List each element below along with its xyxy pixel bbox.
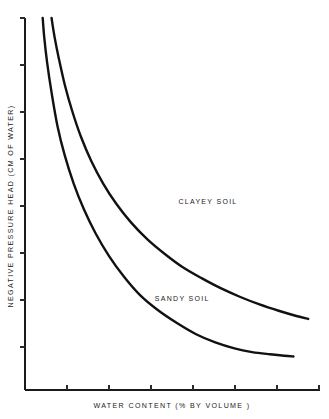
y-axis-ticks	[20, 18, 25, 347]
x-axis-ticks	[67, 385, 319, 390]
chart-canvas: CLAYEY SOIL SANDY SOIL WATER CONTENT (% …	[0, 0, 329, 419]
curve-clayey-soil	[52, 18, 309, 319]
series-label-sandy-soil: SANDY SOIL	[155, 295, 210, 302]
data-curves	[43, 18, 309, 357]
chart-figure: CLAYEY SOIL SANDY SOIL WATER CONTENT (% …	[0, 0, 329, 419]
axes-group	[25, 18, 320, 390]
series-label-clayey-soil: CLAYEY SOIL	[178, 198, 237, 205]
x-axis-title: WATER CONTENT (% BY VOLUME )	[94, 402, 251, 410]
y-axis-title: NEGATIVE PRESSURE HEAD (CM OF WATER)	[7, 105, 15, 308]
curve-sandy-soil	[43, 18, 294, 357]
